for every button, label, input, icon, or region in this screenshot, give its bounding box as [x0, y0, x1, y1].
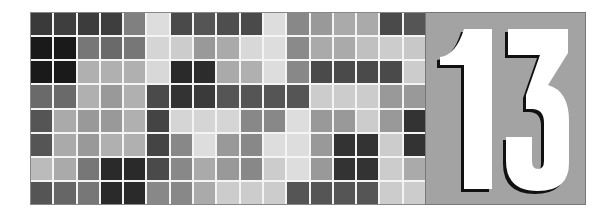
grid-tile — [287, 110, 308, 132]
grid-tile — [287, 134, 308, 156]
grid-tile — [31, 158, 52, 180]
grid-tile — [264, 13, 285, 35]
grid-tile — [78, 158, 99, 180]
grid-tile — [31, 110, 52, 132]
grid-tile — [264, 110, 285, 132]
grid-tile — [217, 85, 238, 107]
grid-tile — [311, 158, 332, 180]
grid-tile — [264, 61, 285, 83]
grid-tile — [147, 85, 168, 107]
grid-tile — [357, 85, 378, 107]
grid-tile — [101, 37, 122, 59]
grid-tile — [241, 182, 262, 204]
grid-tile — [380, 61, 401, 83]
grid-tile — [217, 37, 238, 59]
grid-tile — [171, 37, 192, 59]
grid-tile — [78, 134, 99, 156]
grid-tile — [171, 85, 192, 107]
grid-tile — [101, 158, 122, 180]
grid-tile — [217, 61, 238, 83]
grid-tile — [147, 110, 168, 132]
grid-tile — [171, 158, 192, 180]
grid-tile — [264, 37, 285, 59]
grid-tile — [264, 158, 285, 180]
grid-tile — [31, 37, 52, 59]
grid-tile — [357, 158, 378, 180]
digit-three-icon — [503, 29, 569, 194]
grid-tile — [54, 85, 75, 107]
grid-tile — [101, 110, 122, 132]
grid-tile — [334, 13, 355, 35]
grid-tile — [380, 13, 401, 35]
grid-tile — [194, 13, 215, 35]
grid-tile — [124, 37, 145, 59]
grid-tile — [217, 13, 238, 35]
grid-tile — [334, 110, 355, 132]
grid-tile — [404, 61, 425, 83]
grid-tile — [194, 110, 215, 132]
grid-tile — [101, 13, 122, 35]
grid-tile — [31, 61, 52, 83]
grid-tile — [194, 85, 215, 107]
grid-tile — [264, 182, 285, 204]
grid-tile — [380, 37, 401, 59]
grid-tile — [54, 134, 75, 156]
grid-tile — [404, 13, 425, 35]
grid-tile — [334, 182, 355, 204]
grid-tile — [171, 182, 192, 204]
grid-tile — [217, 182, 238, 204]
grid-tile — [54, 158, 75, 180]
grid-tile — [147, 134, 168, 156]
grid-tile — [194, 134, 215, 156]
grid-tile — [124, 110, 145, 132]
grid-tile — [357, 13, 378, 35]
grid-tile — [171, 13, 192, 35]
grid-tile — [357, 182, 378, 204]
grid-tile — [380, 134, 401, 156]
grid-tile — [334, 158, 355, 180]
grid-tile — [147, 182, 168, 204]
grid-tile — [124, 61, 145, 83]
grid-tile — [380, 158, 401, 180]
grid-tile — [54, 13, 75, 35]
grid-tile — [287, 85, 308, 107]
grid-tile — [217, 134, 238, 156]
grid-tile — [404, 37, 425, 59]
grid-tile — [78, 37, 99, 59]
grid-tile — [380, 110, 401, 132]
grayscale-tile-grid — [30, 12, 425, 205]
grid-tile — [264, 85, 285, 107]
grid-tile — [147, 37, 168, 59]
grid-tile — [124, 13, 145, 35]
grid-tile — [287, 182, 308, 204]
grid-tile — [31, 182, 52, 204]
grid-tile — [241, 85, 262, 107]
grid-tile — [287, 37, 308, 59]
grid-tile — [311, 37, 332, 59]
grid-tile — [31, 85, 52, 107]
grid-tile — [334, 85, 355, 107]
grid-tile — [241, 158, 262, 180]
grid-tile — [31, 134, 52, 156]
grid-tile — [54, 61, 75, 83]
grid-tile — [78, 85, 99, 107]
grid-tile — [311, 110, 332, 132]
grid-tile — [241, 110, 262, 132]
grid-tile — [78, 182, 99, 204]
grid-tile — [334, 61, 355, 83]
grid-tile — [171, 134, 192, 156]
grid-tile — [311, 61, 332, 83]
grid-tile — [54, 110, 75, 132]
grid-tile — [357, 61, 378, 83]
grid-tile — [404, 158, 425, 180]
grid-tile — [78, 110, 99, 132]
number-panel: 13 — [425, 12, 586, 205]
grid-tile — [171, 61, 192, 83]
grid-tile — [404, 85, 425, 107]
grid-tile — [404, 134, 425, 156]
grid-tile — [31, 13, 52, 35]
grid-tile — [241, 37, 262, 59]
grid-tile — [334, 134, 355, 156]
grid-tile — [147, 13, 168, 35]
grid-tile — [101, 85, 122, 107]
